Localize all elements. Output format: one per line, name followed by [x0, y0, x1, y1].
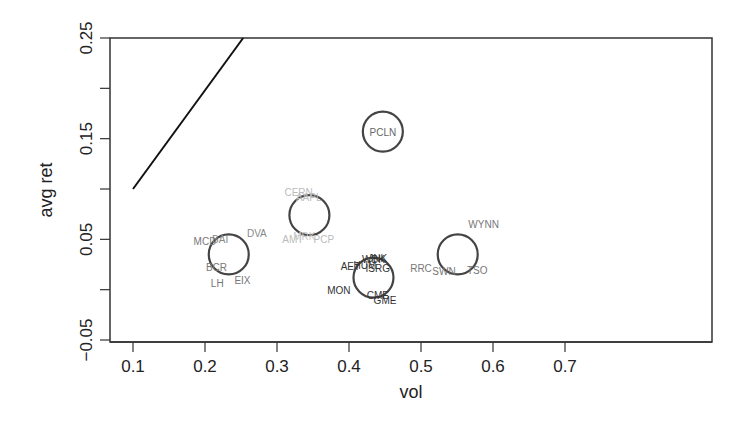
point-label: ISRG — [366, 263, 391, 274]
point-label: AAPL — [296, 192, 322, 203]
point-label: SWN — [432, 266, 455, 277]
point-label: RRC — [410, 263, 432, 274]
point-label: GME — [374, 295, 397, 306]
point-label: LH — [211, 278, 224, 289]
x-tick-label: 0.2 — [193, 357, 217, 376]
point-label: BCR — [206, 262, 227, 273]
reference-line — [133, 38, 243, 189]
x-axis-title: vol — [399, 382, 422, 402]
y-tick-label: −0.05 — [77, 319, 96, 362]
point-label: EIX — [234, 275, 250, 286]
plot-frame — [110, 38, 712, 342]
x-tick-label: 0.5 — [409, 357, 433, 376]
point-label: PCLN — [369, 127, 396, 138]
y-tick-label: 0.15 — [77, 122, 96, 155]
x-axis: 0.10.20.30.40.50.60.7 — [110, 342, 712, 376]
y-tick-label: 0.05 — [77, 223, 96, 256]
x-tick-label: 0.7 — [553, 357, 577, 376]
point-label: PCP — [314, 234, 335, 245]
scatter-chart: 0.10.20.30.40.50.60.7 −0.050.050.150.25 … — [0, 0, 746, 422]
y-axis: −0.050.050.150.25 — [77, 21, 110, 361]
point-label: MRK — [293, 231, 316, 242]
point-label: WYNN — [468, 219, 499, 230]
y-tick-label: 0.25 — [77, 21, 96, 54]
point-label: DVA — [247, 228, 267, 239]
y-axis-title: avg ret — [36, 162, 56, 217]
point-label: BAI — [212, 234, 228, 245]
x-tick-label: 0.4 — [337, 357, 361, 376]
point-label: TSO — [467, 265, 488, 276]
x-tick-label: 0.1 — [121, 357, 145, 376]
x-tick-label: 0.6 — [481, 357, 505, 376]
point-labels: MCDBAIBCRLHEIXDVACERNAAPLAMTMRKPCPPCLNAE… — [194, 127, 499, 306]
x-tick-label: 0.3 — [265, 357, 289, 376]
point-label: MON — [327, 285, 350, 296]
